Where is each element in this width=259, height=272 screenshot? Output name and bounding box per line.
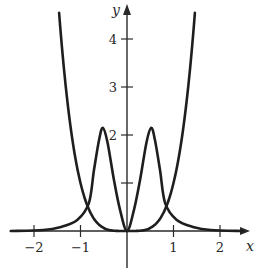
labels: −2−112234xy — [24, 2, 254, 255]
x-tick-label: 1 — [169, 240, 177, 255]
y-tick-label: 4 — [109, 32, 117, 47]
x-tick-label: −2 — [24, 240, 43, 255]
x-tick-label: 2 — [216, 240, 224, 255]
chart: −2−112234xy — [0, 0, 259, 272]
y-axis-arrow-icon — [123, 4, 131, 15]
x-axis-label: x — [246, 238, 254, 254]
y-tick-label: 3 — [109, 80, 117, 95]
y-tick-label: 2 — [109, 128, 117, 143]
y-axis-label: y — [111, 2, 121, 18]
x-tick-label: −1 — [71, 240, 90, 255]
